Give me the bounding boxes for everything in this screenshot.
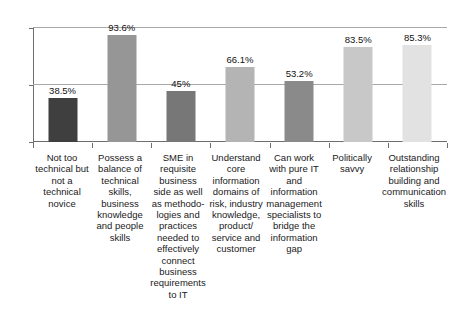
- bar-chart: 100500 38.5%93.6%45%66.1%53.2%83.5%85.3%…: [0, 0, 460, 312]
- x-tick-mark: [270, 143, 271, 148]
- bar-value-label: 93.6%: [108, 23, 135, 33]
- bar[interactable]: [403, 45, 432, 142]
- x-tick-mark: [92, 143, 93, 148]
- bar-slot: 93.6%: [92, 28, 151, 142]
- plot-area: 38.5%93.6%45%66.1%53.2%83.5%85.3%: [33, 28, 447, 142]
- bar[interactable]: [285, 81, 314, 142]
- bar-slot: 45%: [151, 28, 210, 142]
- x-tick-mark: [329, 143, 330, 148]
- x-axis-category-labels: Not too technical but not a technical no…: [33, 152, 447, 300]
- bar-value-label: 38.5%: [49, 86, 76, 96]
- bar-slot: 85.3%: [388, 28, 447, 142]
- bar-value-label: 53.2%: [286, 69, 313, 79]
- bar[interactable]: [48, 98, 77, 142]
- bar-value-label: 85.3%: [404, 33, 431, 43]
- x-tick-mark: [388, 143, 389, 148]
- x-tick-mark: [151, 143, 152, 148]
- bar[interactable]: [166, 91, 195, 142]
- bar[interactable]: [107, 35, 136, 142]
- bar-value-label: 45%: [171, 79, 190, 89]
- bar-slot: 38.5%: [33, 28, 92, 142]
- bar[interactable]: [225, 67, 254, 142]
- bar-value-label: 83.5%: [345, 35, 372, 45]
- x-tick-mark: [210, 143, 211, 148]
- bar-value-label: 66.1%: [227, 55, 254, 65]
- category-label: Understand core information domains of r…: [207, 152, 265, 255]
- bar[interactable]: [344, 47, 373, 142]
- category-label: Can work with pure IT and information ma…: [265, 152, 323, 255]
- bar-slot: 66.1%: [210, 28, 269, 142]
- bar-slot: 53.2%: [270, 28, 329, 142]
- category-label: Outstanding relationship building and co…: [381, 152, 447, 209]
- category-label: Possess a balance of technical skills, b…: [91, 152, 149, 243]
- bar-slot: 83.5%: [329, 28, 388, 142]
- x-axis-ticks: [33, 143, 448, 149]
- category-label: Not too technical but not a technical no…: [33, 152, 91, 209]
- category-label: SME in requisite business side as well a…: [149, 152, 207, 300]
- category-label: Politically savvy: [323, 152, 381, 175]
- x-tick-mark: [447, 143, 448, 148]
- x-tick-mark: [33, 143, 34, 148]
